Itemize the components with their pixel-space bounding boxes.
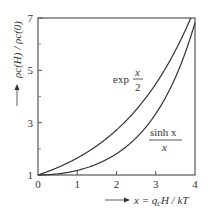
- exp-label-numerator: x: [134, 66, 140, 78]
- exp-label-denominator: 2: [135, 81, 141, 93]
- curve-exp: [38, 18, 191, 175]
- y-ticks: 1357: [28, 12, 43, 181]
- x-tick-label: 2: [114, 178, 120, 190]
- y-axis-label: ρc(H) / ρc(0): [11, 21, 24, 106]
- x-axis-label-suffix: H / kT: [160, 194, 189, 206]
- y-axis-label-text: ρc(H) / ρc(0): [11, 21, 24, 79]
- x-tick-label: 0: [35, 178, 41, 190]
- x-axis-arrow-icon: [124, 198, 130, 203]
- x-tick-label: 1: [75, 178, 81, 190]
- exp-curve-label: exp x 2: [113, 66, 143, 93]
- x-axis-label: x = qcH / kT: [105, 194, 189, 208]
- x-axis-label-prefix: x = q: [133, 194, 158, 206]
- y-tick-label: 5: [28, 64, 34, 76]
- y-axis-arrow-icon: [15, 84, 20, 90]
- svg-text:x = qcH / kT: x = qcH / kT: [133, 194, 189, 208]
- y-tick-label: 3: [28, 117, 34, 129]
- x-tick-label: 4: [192, 178, 198, 190]
- y-tick-label: 1: [28, 169, 34, 181]
- x-tick-label: 3: [153, 178, 159, 190]
- curves: [38, 18, 195, 175]
- exp-label-main: exp: [113, 73, 129, 85]
- y-tick-label: 7: [28, 12, 34, 24]
- sinh-label-numerator: sinh x: [150, 126, 177, 138]
- chart: 1357 01234 exp x 2 sinh x x x = qcH / kT…: [0, 0, 208, 214]
- sinh-label-denominator: x: [161, 141, 167, 153]
- sinh-curve-label: sinh x x: [149, 126, 182, 153]
- curve-sinh: [38, 23, 195, 175]
- plot-frame: [38, 18, 195, 175]
